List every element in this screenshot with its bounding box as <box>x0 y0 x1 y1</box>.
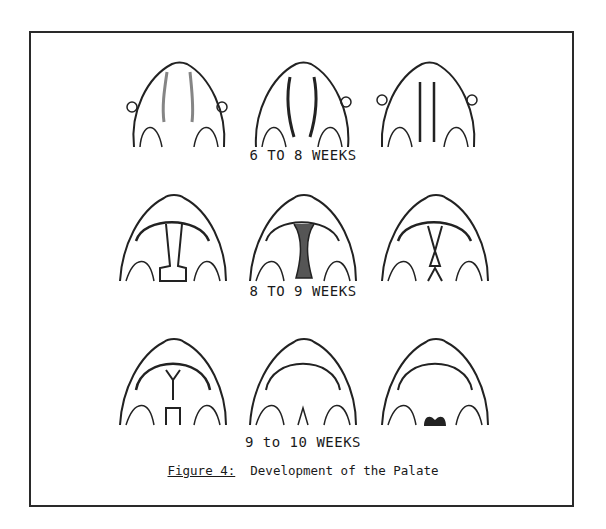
palate-drawing-9-10-weeks-1 <box>114 330 232 430</box>
stage-label-6-8-weeks: 6 TO 8 WEEKS <box>0 147 606 163</box>
palate-drawing-8-9-weeks-1 <box>114 186 232 286</box>
figure-caption: Figure 4: Development of the Palate <box>0 463 606 478</box>
palate-drawing-6-8-weeks-3 <box>372 52 482 152</box>
stage-label-9-10-weeks: 9 to 10 WEEKS <box>0 434 606 450</box>
palate-drawing-6-8-weeks-2 <box>246 52 356 152</box>
palate-drawing-8-9-weeks-3 <box>376 186 494 286</box>
stage-label-8-9-weeks: 8 TO 9 WEEKS <box>0 283 606 299</box>
palate-drawing-9-10-weeks-3 <box>376 330 494 430</box>
figure-number: Figure 4: <box>168 463 236 478</box>
palate-drawing-6-8-weeks-1 <box>122 52 232 152</box>
palate-drawing-9-10-weeks-2 <box>244 330 362 430</box>
figure-title: Development of the Palate <box>250 463 438 478</box>
palate-drawing-8-9-weeks-2 <box>244 186 362 286</box>
